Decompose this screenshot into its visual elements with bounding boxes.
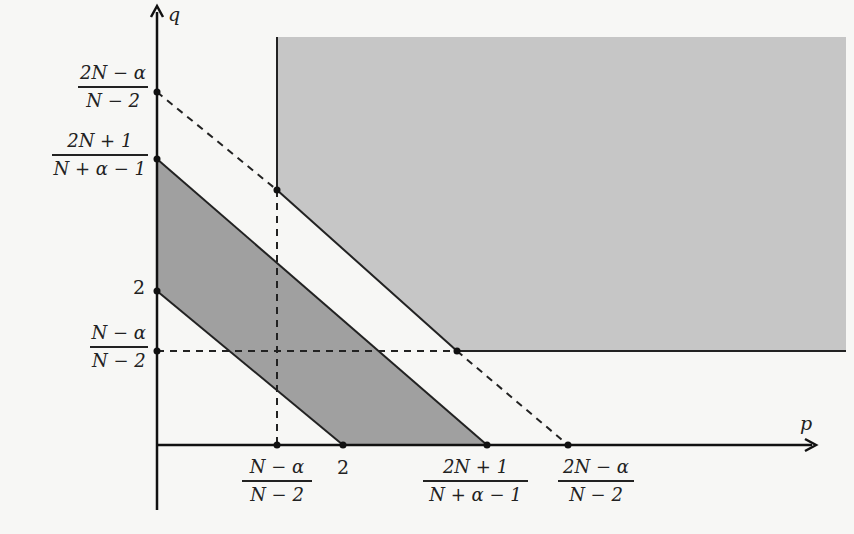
x-label-2: 2 [337,458,349,477]
numerator: N − α [248,456,306,478]
dashed-diagonal-lower [457,351,568,445]
fraction-bar [423,480,528,482]
fraction-bar [52,154,148,156]
denominator: N − 2 [248,484,306,506]
y-label-n-minus-alpha: N − α N − 2 [90,322,148,372]
point-x4 [565,442,572,449]
denominator: N − 2 [84,90,142,112]
fraction-bar [78,86,148,88]
point-corner-lower [454,348,461,355]
denominator: N − 2 [90,350,148,372]
light-region [277,37,846,351]
point-x2 [340,442,347,449]
denominator: N + α − 1 [427,484,523,506]
point-corner-upper [274,187,281,194]
y-label-2n-minus-alpha: 2N − α N − 2 [78,62,148,112]
fraction-bar [242,480,312,482]
y-label-2: 2 [133,278,145,297]
point-y4 [154,348,161,355]
numerator: 2N + 1 [441,456,510,478]
q-axis-label: q [168,5,180,24]
point-y1 [154,89,161,96]
x-label-2n-minus-alpha: 2N − α N − 2 [558,456,634,506]
fraction-bar [90,346,148,348]
point-y3 [154,288,161,295]
numerator: 2N + 1 [65,130,134,152]
p-axis-label: p [800,414,812,433]
y-label-2n-plus-1: 2N + 1 N + α − 1 [52,130,148,180]
x-label-n-minus-alpha: N − α N − 2 [242,456,312,506]
point-x1 [274,442,281,449]
numerator: 2N − α [561,456,631,478]
denominator: N + α − 1 [52,158,148,180]
point-x3 [484,442,491,449]
fraction-bar [558,480,634,482]
point-y2 [154,156,161,163]
x-label-2n-plus-1: 2N + 1 N + α − 1 [423,456,528,506]
numerator: N − α [90,322,148,344]
denominator: N − 2 [567,484,625,506]
numerator: 2N − α [78,62,148,84]
